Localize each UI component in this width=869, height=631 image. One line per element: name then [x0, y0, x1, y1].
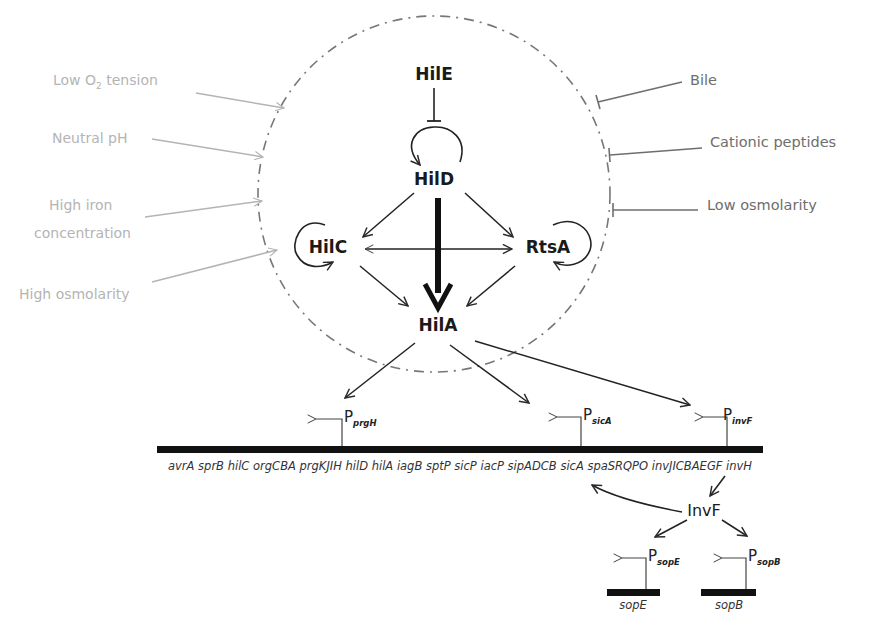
promoter-arrow-icon — [557, 417, 581, 447]
signal-cationic-peptides: Cationic peptides — [609, 134, 836, 162]
promoter-prgh: PprgH — [316, 408, 377, 447]
promoter-label: PsicA — [583, 406, 612, 426]
activation-arrow-icon — [360, 266, 408, 306]
promoter-arrow-icon — [316, 419, 342, 447]
activation-arrow-icon — [152, 139, 263, 157]
promoter-sopb: PsopB — [722, 547, 781, 590]
regulator-rtsa: RtsA — [526, 237, 571, 257]
activation-arrow-icon — [722, 520, 747, 536]
activation-arrow-icon — [196, 93, 284, 108]
gene-sope: sopE — [619, 598, 647, 612]
regulator-hild: HilD — [414, 169, 454, 189]
sopb-dna-bar — [701, 589, 756, 596]
hild-autoactivation-loop-icon — [412, 127, 462, 165]
promoter-sope: PsopE — [622, 547, 680, 590]
signal-label: High osmolarity — [19, 286, 130, 302]
signal-neutral-ph: Neutral pH — [52, 130, 263, 157]
promoter-label: PprgH — [344, 408, 377, 428]
signal-low-o2-tension: Low O2 tension — [53, 72, 284, 108]
regulatory-diagram: Low O2 tension Neutral pH High iron conc… — [0, 0, 869, 631]
promoter-arrow-icon — [622, 558, 646, 590]
gene-sopb: sopB — [715, 598, 743, 612]
signal-label: Neutral pH — [52, 130, 128, 146]
repression-line — [598, 82, 682, 102]
signal-low-osmolarity: Low osmolarity — [613, 197, 817, 217]
repression-bar-icon — [609, 148, 610, 162]
activation-arrow-icon — [363, 193, 414, 237]
activation-arrow-icon — [655, 520, 687, 537]
regulator-hilc: HilC — [309, 237, 347, 257]
promoter-label: PsopE — [648, 547, 680, 567]
signal-label: Low osmolarity — [707, 197, 817, 213]
spi1-dna-bar — [157, 446, 763, 453]
signal-label: Low O2 tension — [53, 72, 158, 91]
sope-dna-bar — [607, 589, 660, 596]
activation-arrow-icon — [592, 485, 682, 512]
signal-label-line1: High iron — [49, 197, 112, 213]
activation-arrow-icon — [152, 250, 277, 282]
promoter-sica: PsicA — [557, 406, 612, 447]
promoter-label: PsopB — [748, 547, 781, 567]
signal-high-osmolarity: High osmolarity — [19, 250, 277, 302]
signal-bile: Bile — [596, 72, 717, 109]
activation-arrow-icon — [145, 201, 262, 217]
spi1-gene-list: avrA sprB hilC orgCBA prgKJIH hilD hilA … — [168, 459, 752, 473]
signal-label: Bile — [690, 72, 717, 88]
promoter-arrow-icon — [722, 558, 746, 590]
repression-line — [610, 148, 702, 155]
promoter-invf: PinvF — [703, 406, 753, 447]
regulator-hila: HilA — [418, 315, 458, 335]
signal-label-line2: concentration — [34, 225, 131, 241]
regulator-invf: InvF — [687, 501, 721, 520]
signal-high-iron-concentration: High iron concentration — [34, 197, 262, 241]
regulator-hile: HilE — [415, 64, 453, 84]
activation-arrow-icon — [475, 341, 690, 405]
activation-arrow-icon — [465, 193, 513, 237]
activation-arrow-icon — [467, 266, 515, 306]
expression-arrow-icon — [710, 476, 725, 496]
signal-label: Cationic peptides — [710, 134, 836, 150]
promoter-label: PinvF — [723, 406, 753, 426]
activation-arrow-icon — [345, 343, 415, 398]
